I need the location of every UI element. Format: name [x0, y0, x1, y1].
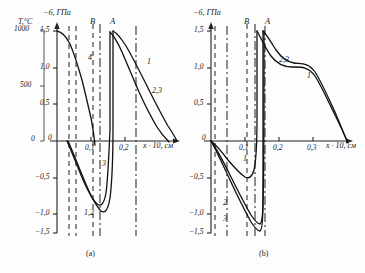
panel-caption-b: (b) — [259, 249, 268, 258]
panel-a-plot — [0, 0, 182, 273]
curve-a-1 — [113, 31, 177, 141]
temperature-axis-a — [40, 30, 44, 141]
ytick-a-m1_5: −1,5 — [35, 228, 49, 236]
temp-tick-1000: 1000 — [14, 25, 29, 33]
marker-b-a: B — [90, 17, 95, 26]
ytick-b-0: 0 — [202, 134, 206, 142]
marker-a-a: A — [110, 17, 115, 26]
panel-caption-a: (a) — [86, 249, 95, 258]
ytick-b-1_0: 1,0 — [194, 63, 203, 71]
stress-axis-label: −б, ГПа — [43, 9, 71, 17]
ytick-a-0_5: 0,5 — [40, 99, 49, 107]
temp-tick-500: 500 — [20, 81, 31, 89]
curve-label-a-12: 1,2 — [84, 209, 94, 217]
ytick-b-m0_5: −0,5 — [189, 173, 203, 181]
curve-label-b-2: 2 — [223, 199, 227, 207]
curves-a — [57, 31, 177, 212]
curve-label-b-1-right: 1 — [307, 72, 311, 80]
ytick-a-m1_0: −1,0 — [35, 209, 49, 217]
marker-b-b: B — [244, 17, 249, 26]
curve-label-a-23: 2,3 — [152, 87, 162, 95]
x-axis-label-a: x · 10, см — [143, 142, 173, 150]
ytick-a-0: 0 — [48, 134, 52, 142]
ytick-b-0_5: 0,5 — [194, 99, 203, 107]
figure-container: T,°C 1000 500 0 −б, ГПа 1,5 1,0 0,5 0 −0… — [0, 0, 365, 273]
xtick-a-0_2: 0,2 — [119, 144, 128, 152]
x-axis-label-b: x · 10, см — [326, 142, 356, 150]
stress-axis-label-b: −б, ГПа — [193, 9, 221, 17]
curve-label-a-3: 3 — [102, 160, 106, 168]
ytick-b-m1_5: −1,5 — [189, 228, 203, 236]
ytick-a-1_0: 1,0 — [40, 63, 49, 71]
panel-b-plot — [183, 0, 365, 273]
panel-b: −б, ГПа 1,5 1,0 0,5 0 −0,5 −1,0 −1,5 0,1… — [183, 0, 365, 273]
curve-label-b-23: 2,3 — [279, 56, 289, 64]
curve-label-b-1: 1 — [243, 155, 247, 163]
curve-label-b-3: 3 — [223, 215, 227, 223]
curve-b-1r — [257, 31, 348, 143]
xtick-a-0_1: 0,1 — [85, 144, 94, 152]
temp-tick-0: 0 — [31, 135, 35, 143]
panel-a: T,°C 1000 500 0 −б, ГПа 1,5 1,0 0,5 0 −0… — [0, 0, 182, 273]
xtick-b-0_3: 0,3 — [307, 144, 316, 152]
ytick-b-1_5: 1,5 — [194, 26, 203, 34]
ytick-a-m0_5: −0,5 — [35, 173, 49, 181]
xtick-b-0_1: 0,1 — [239, 144, 248, 152]
xtick-b-0_2: 0,2 — [273, 144, 282, 152]
ytick-a-1_5: 1,5 — [40, 26, 49, 34]
curve-b-3 — [211, 31, 264, 231]
marker-a-b: A — [265, 17, 270, 26]
curve-label-a-1: 1 — [147, 58, 151, 66]
curve-b-23 — [263, 31, 347, 141]
curve-label-a-4: 4 — [88, 54, 92, 62]
ytick-b-m1_0: −1,0 — [189, 209, 203, 217]
